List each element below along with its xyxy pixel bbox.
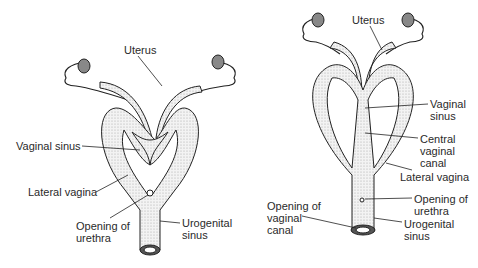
label-uterus-right: Uterus bbox=[352, 14, 384, 26]
label-lateral-vagina-left: Lateral vagina bbox=[28, 186, 97, 198]
label-central-vaginal-canal: Centralvaginalcanal bbox=[420, 133, 455, 169]
label-opening-vaginal-canal: Opening ofvaginalcanal bbox=[267, 200, 321, 236]
label-vaginal-sinus-right: Vaginalsinus bbox=[430, 98, 466, 122]
diagram-canvas: Uterus Vaginal sinus Lateral vagina Open… bbox=[0, 0, 478, 268]
label-urogenital-sinus-right: Urogenitalsinus bbox=[404, 218, 454, 242]
label-opening-urethra-left: Opening ofurethra bbox=[76, 220, 130, 244]
label-lateral-vagina-right: Lateral vagina bbox=[400, 171, 469, 183]
label-uterus-left: Uterus bbox=[124, 44, 156, 56]
label-opening-urethra-right: Opening ofurethra bbox=[414, 193, 468, 217]
label-urogenital-sinus-left: Urogenitalsinus bbox=[182, 217, 232, 241]
label-vaginal-sinus-left: Vaginal sinus bbox=[16, 140, 81, 152]
